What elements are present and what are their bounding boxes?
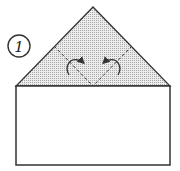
triangle-flap [16,7,170,86]
origami-diagram: 1 [0,0,180,171]
paper-rectangle [16,86,170,165]
step-number-badge: 1 [8,35,30,57]
step-number: 1 [14,38,24,56]
